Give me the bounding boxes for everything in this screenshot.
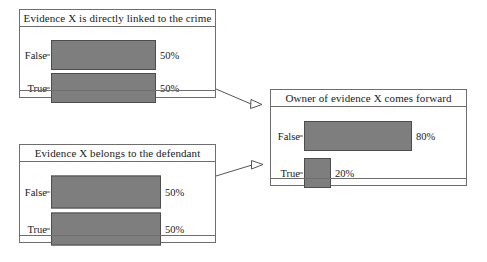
edge-line <box>216 89 251 104</box>
state-value: 50% <box>156 50 179 61</box>
node-body: False 50% True 50% <box>20 162 215 243</box>
arrowhead-icon <box>251 100 263 109</box>
node-body: False 80% True 20% <box>271 107 466 186</box>
node-footer <box>271 178 466 186</box>
node-title: Evidence X is directly linked to the cri… <box>20 10 215 27</box>
node-title: Evidence X belongs to the defendant <box>20 145 215 162</box>
node-footer <box>20 90 215 98</box>
state-bar <box>51 73 156 103</box>
state-tick <box>46 55 50 56</box>
diagram-canvas: Evidence X is directly linked to the cri… <box>0 0 487 262</box>
node-owner-comes-forward[interactable]: Owner of evidence X comes forward False … <box>270 89 467 186</box>
state-value: 80% <box>412 131 435 142</box>
state-value: 50% <box>161 187 184 198</box>
edge-line <box>216 165 252 176</box>
edge-belongs-to-owner <box>216 161 263 177</box>
state-tick <box>46 229 50 230</box>
state-value: 50% <box>161 224 184 235</box>
node-footer <box>20 235 215 243</box>
state-tick <box>46 88 50 89</box>
state-bar <box>51 176 161 209</box>
state-bar <box>51 40 156 70</box>
state-tick <box>46 192 50 193</box>
node-evidence-belongs-to-defendant[interactable]: Evidence X belongs to the defendant Fals… <box>19 144 216 243</box>
state-value: 20% <box>331 168 354 179</box>
node-body: False 50% True 50% <box>20 27 215 98</box>
node-evidence-linked-to-crime[interactable]: Evidence X is directly linked to the cri… <box>19 9 216 98</box>
edge-linked-to-owner <box>216 89 262 109</box>
arrowhead-icon <box>252 161 264 170</box>
state-bar <box>304 121 412 151</box>
state-tick <box>299 173 303 174</box>
node-title: Owner of evidence X comes forward <box>271 90 466 107</box>
state-tick <box>299 136 303 137</box>
